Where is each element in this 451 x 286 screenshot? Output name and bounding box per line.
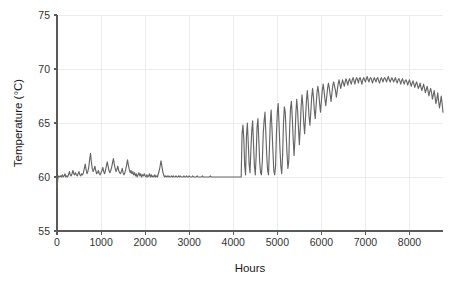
svg-text:3000: 3000 (178, 236, 202, 248)
x-tick-labels: 010002000300040005000600070008000 (54, 236, 421, 248)
temperature-time-series-chart: 5560657075 01000200030004000500060007000… (0, 0, 451, 286)
svg-text:4000: 4000 (222, 236, 246, 248)
svg-text:5000: 5000 (266, 236, 290, 248)
svg-text:6000: 6000 (310, 236, 334, 248)
svg-text:1000: 1000 (89, 236, 113, 248)
y-tick-labels: 5560657075 (38, 9, 50, 237)
chart-canvas: 5560657075 01000200030004000500060007000… (0, 0, 451, 286)
svg-text:7000: 7000 (354, 236, 378, 248)
y-axis-title: Temperature (°C) (12, 79, 24, 167)
svg-text:0: 0 (54, 236, 60, 248)
axes (54, 15, 444, 235)
svg-text:60: 60 (38, 171, 50, 183)
svg-text:8000: 8000 (398, 236, 422, 248)
temperature-series-line (57, 77, 443, 188)
svg-text:2000: 2000 (133, 236, 157, 248)
gridlines (57, 15, 443, 231)
svg-text:75: 75 (38, 9, 50, 21)
x-axis-title: Hours (235, 262, 266, 274)
svg-text:55: 55 (38, 225, 50, 237)
svg-text:70: 70 (38, 63, 50, 75)
svg-text:65: 65 (38, 117, 50, 129)
